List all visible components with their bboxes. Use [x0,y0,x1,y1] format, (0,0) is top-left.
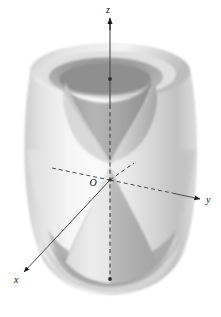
y-axis-label: y [205,194,211,205]
z-bottom-dot [108,277,112,281]
z-axis-label: z [105,4,110,15]
quadric-surface-figure: z y x O [0,0,221,317]
z-top-dot [108,77,112,81]
origin-dot [108,178,111,181]
surface-group [24,43,197,295]
figure-canvas: z y x O [0,0,221,317]
x-axis-label: x [13,274,19,285]
origin-label: O [89,177,96,188]
top-throat-shadow [59,64,151,95]
